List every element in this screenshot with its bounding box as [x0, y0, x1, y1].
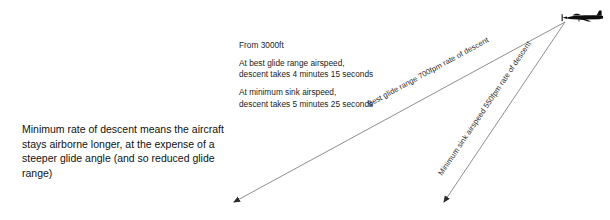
airplane-side-icon	[562, 11, 603, 22]
best-glide-range-path-line	[234, 22, 565, 202]
glide-path-drawing	[0, 0, 610, 220]
glide-performance-diagram: Minimum rate of descent means the aircra…	[0, 0, 610, 220]
